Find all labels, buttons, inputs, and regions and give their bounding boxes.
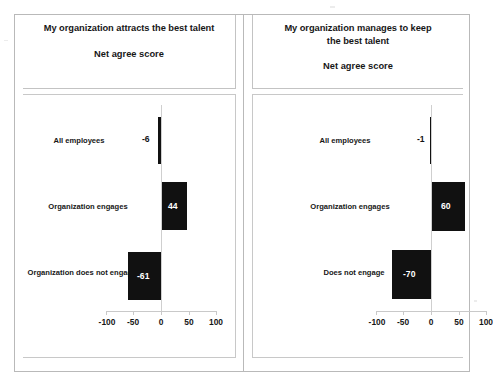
axis-tick-label: -100	[369, 317, 386, 327]
bar-value-label: -6	[142, 134, 150, 144]
axis-tick-label: -50	[127, 317, 139, 327]
bar-all-employees	[158, 117, 161, 164]
axis-tick	[459, 311, 460, 315]
plot-area-left: All employees -6 Organization engages 44…	[23, 95, 235, 357]
bar-value-label: 60	[441, 201, 451, 211]
scan-artifact	[4, 40, 8, 41]
axis-tick	[403, 311, 404, 315]
report-frame: My organization attracts the best talent…	[14, 14, 470, 372]
bar-row: Organization engages 44	[23, 173, 235, 239]
axis-tick	[133, 311, 134, 315]
scan-artifact	[474, 300, 477, 302]
axis-tick-label: -100	[99, 317, 116, 327]
category-label: Organization engages	[285, 173, 415, 239]
chart-box-left: All employees -6 Organization engages 44…	[23, 94, 236, 358]
chart-panel-right: My organization manages to keep the best…	[244, 15, 471, 371]
panel-header-right: My organization manages to keep the best…	[252, 15, 463, 89]
axis-tick	[189, 311, 190, 315]
axis-tick-label: 100	[209, 317, 223, 327]
axis-tick-label: 0	[159, 317, 164, 327]
axis-tick-label: 50	[184, 317, 193, 327]
axis-tick	[161, 311, 162, 315]
bar-value-label: -1	[417, 134, 425, 144]
bar-row: Does not engage -70	[253, 239, 463, 305]
category-label: All employees	[31, 107, 127, 173]
panel-title-right: My organization manages to keep the best…	[259, 22, 457, 47]
category-label: Organization does not engage	[23, 239, 141, 305]
bar-row: All employees -1	[253, 107, 463, 173]
panel-header-left: My organization attracts the best talent…	[23, 15, 236, 89]
axis-tick-label: 0	[429, 317, 434, 327]
axis-tick-label: 50	[454, 317, 463, 327]
axis-tick-label: 100	[479, 317, 493, 327]
axis-tick	[431, 311, 432, 315]
bar-value-label: 44	[168, 201, 178, 211]
plot-area-right: All employees -1 Organization engages 60…	[253, 95, 463, 357]
bar-row: Organization engages 60	[253, 173, 463, 239]
bar-row: Organization does not engage -61	[23, 239, 235, 305]
axis-tick	[216, 311, 217, 315]
axis-tick-label: -50	[397, 317, 409, 327]
axis-tick	[486, 311, 487, 315]
axis-tick	[376, 311, 377, 315]
chart-panel-left: My organization attracts the best talent…	[15, 15, 244, 371]
scan-artifact	[330, 6, 335, 8]
panel-subtitle-left: Net agree score	[29, 48, 229, 61]
chart-box-right: All employees -1 Organization engages 60…	[252, 94, 463, 358]
bar-value-label: -61	[137, 271, 149, 281]
axis-tick	[106, 311, 107, 315]
panel-subtitle-right: Net agree score	[259, 60, 457, 73]
category-label: Organization engages	[23, 173, 153, 239]
bar-value-label: -70	[403, 269, 415, 279]
category-label: All employees	[297, 107, 393, 173]
bar-row: All employees -6	[23, 107, 235, 173]
panel-title-left: My organization attracts the best talent	[29, 22, 229, 35]
bar-all-employees	[430, 117, 431, 164]
